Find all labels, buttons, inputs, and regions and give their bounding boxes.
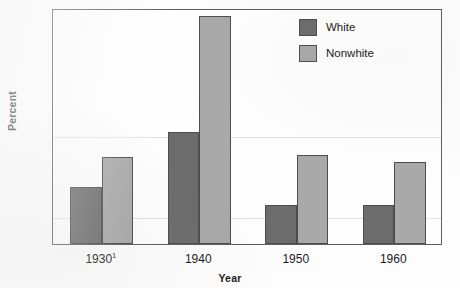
x-tick-year: 1940 bbox=[185, 252, 212, 266]
bar-1930-nonwhite bbox=[102, 157, 134, 244]
bar-1940-nonwhite bbox=[199, 16, 231, 244]
x-tick-label-1940: 1940 bbox=[158, 252, 238, 266]
x-tick-label-1930: 19301 bbox=[61, 252, 141, 266]
scan-artifact-line bbox=[53, 137, 441, 138]
bar-1960-white bbox=[363, 205, 395, 244]
legend-entry-white: White bbox=[299, 18, 374, 36]
x-tick-year: 1960 bbox=[380, 252, 407, 266]
bar-1950-white bbox=[265, 205, 297, 244]
legend-entry-nonwhite: Nonwhite bbox=[299, 44, 374, 62]
legend-swatch-white bbox=[299, 19, 317, 36]
x-tick-year: 1950 bbox=[282, 252, 309, 266]
x-tick-label-1960: 1960 bbox=[353, 252, 433, 266]
legend-swatch-nonwhite bbox=[299, 45, 317, 62]
legend-label-nonwhite: Nonwhite bbox=[326, 47, 374, 59]
legend-label-white: White bbox=[326, 21, 355, 33]
bar-chart-figure: Percent 051015202530 White Nonwhite 1930… bbox=[0, 0, 460, 288]
x-tick-footnote-marker: 1 bbox=[112, 252, 116, 259]
chart-legend: White Nonwhite bbox=[299, 18, 374, 70]
bar-1940-white bbox=[168, 132, 200, 244]
bar-1950-nonwhite bbox=[297, 155, 329, 244]
bar-1930-white bbox=[70, 187, 102, 244]
bar-1960-nonwhite bbox=[394, 162, 426, 244]
x-axis-title: Year bbox=[0, 272, 460, 284]
plot-area: White Nonwhite bbox=[52, 9, 442, 245]
x-tick-year: 1930 bbox=[85, 252, 112, 266]
x-tick-label-1950: 1950 bbox=[256, 252, 336, 266]
y-axis-title: Percent bbox=[6, 76, 18, 146]
